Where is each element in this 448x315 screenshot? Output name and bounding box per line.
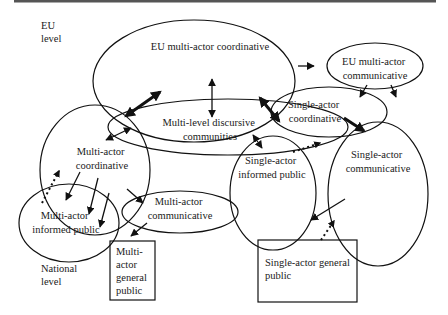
edge-mac-maip-1 [66,172,80,200]
node-multi-actor-general-public: Multi- actor general public [110,241,155,300]
node-multi-actor-informed-public: Multi-actor informed public [19,184,119,262]
svg-text:Multi- actor gener: Multi- actor general public [116,246,150,296]
svg-text:Single-actor general pub: Single-actor general public [265,257,352,281]
national-level-label: National level [41,263,80,287]
svg-text:EU multi-actor coordinative: EU multi-actor coordinative [151,41,270,52]
svg-text:Single-actor coordinativ: Single-actor coordinative [288,99,342,124]
svg-text:Single-actor informed pu: Single-actor informed public [238,155,306,180]
edge-mac-euc-thick [126,92,160,116]
top-rule [14,0,436,3]
node-eu-multi-actor-communicative: EU multi-actor communicative [327,43,423,89]
svg-text:Multi-actor informed pub: Multi-actor informed public [32,210,100,235]
svg-text:EU multi-actor communica: EU multi-actor communicative [342,56,408,81]
edge-saip-sac-dotted [293,143,320,152]
svg-text:Multi-actor communicativ: Multi-actor communicative [148,196,213,221]
edge-mac-maip-3 [100,193,109,227]
node-multi-actor-communicative: Multi-actor communicative [122,191,238,233]
node-single-actor-general-public: Single-actor general public [258,240,357,302]
svg-text:Multi-level discursive c: Multi-level discursive communities [162,117,257,142]
node-single-actor-communicative: Single-actor communicative [328,122,428,266]
svg-text:Single-actor communicati: Single-actor communicative [346,149,411,174]
edge-mac-maip-2 [89,178,98,214]
eu-level-label: EU level [41,20,61,44]
svg-text:Multi-actor coordinative: Multi-actor coordinative [76,146,129,171]
discursive-interactions-diagram: EU level National level EU multi-actor c… [0,0,448,315]
